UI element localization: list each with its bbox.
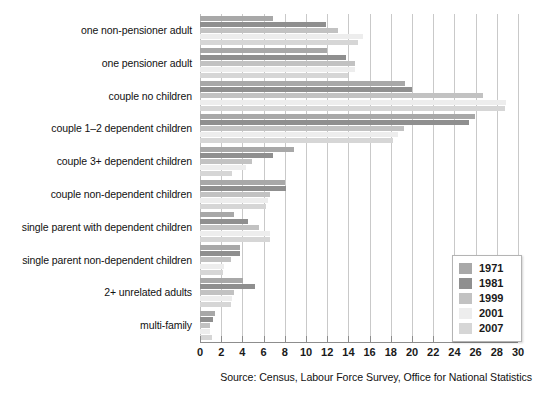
- bar: [200, 165, 246, 170]
- tick-mark-22: [433, 336, 434, 342]
- tick-label-0: 0: [197, 345, 203, 359]
- bar: [200, 329, 210, 334]
- tick-mark-2: [221, 336, 222, 342]
- bar: [200, 171, 232, 176]
- bar: [200, 231, 270, 236]
- legend-item[interactable]: 1981: [459, 276, 515, 291]
- legend-swatch-icon: [459, 263, 472, 274]
- bar: [200, 114, 475, 119]
- category-label: one pensioner adult: [2, 57, 192, 70]
- bar: [200, 198, 268, 203]
- bar: [200, 81, 405, 86]
- bar: [200, 270, 223, 275]
- tick-label-16: 16: [363, 345, 375, 359]
- bar-group: [200, 47, 518, 80]
- legend-item[interactable]: 2007: [459, 321, 515, 336]
- category-label: single parent with dependent children: [2, 221, 192, 234]
- tick-mark-20: [412, 336, 413, 342]
- bar: [200, 311, 215, 316]
- x-axis-tick-labels: 024681012141618202224262830: [200, 345, 518, 361]
- bar: [200, 120, 469, 125]
- tick-mark-12: [327, 336, 328, 342]
- category-label: multi-family: [2, 319, 192, 332]
- bar-group: [200, 145, 518, 178]
- bar: [200, 284, 255, 289]
- legend-item[interactable]: 1999: [459, 291, 515, 306]
- tick-label-22: 22: [427, 345, 439, 359]
- bar: [200, 34, 363, 39]
- source-note: Source: Census, Labour Force Survey, Off…: [0, 370, 532, 384]
- bar: [200, 48, 327, 53]
- bar: [200, 93, 483, 98]
- bar: [200, 317, 213, 322]
- bar: [200, 132, 398, 137]
- bar: [200, 278, 243, 283]
- bar: [200, 159, 252, 164]
- tick-mark-6: [264, 336, 265, 342]
- bar: [200, 61, 355, 66]
- bar: [200, 126, 404, 131]
- tick-label-30: 30: [512, 345, 524, 359]
- tick-label-2: 2: [218, 345, 224, 359]
- bar-group: [200, 14, 518, 47]
- tick-label-8: 8: [282, 345, 288, 359]
- bar: [200, 257, 231, 262]
- bar: [200, 16, 273, 21]
- legend-label: 2007: [479, 322, 503, 335]
- category-label: couple 1–2 dependent children: [2, 122, 192, 135]
- legend-label: 1971: [479, 262, 503, 275]
- bar: [200, 296, 232, 301]
- bar: [200, 55, 346, 60]
- bar: [200, 302, 231, 307]
- bar: [200, 73, 348, 78]
- category-label: couple 3+ dependent children: [2, 155, 192, 168]
- tick-mark-18: [391, 336, 392, 342]
- legend[interactable]: 19711981199920012007: [452, 255, 522, 342]
- tick-mark-4: [242, 336, 243, 342]
- tick-label-4: 4: [239, 345, 245, 359]
- category-label: one non-pensioner adult: [2, 24, 192, 37]
- tick-mark-14: [348, 336, 349, 342]
- bar: [200, 138, 393, 143]
- legend-swatch-icon: [459, 278, 472, 289]
- bar: [200, 237, 270, 242]
- bar: [200, 87, 412, 92]
- bar: [200, 323, 210, 328]
- bar: [200, 153, 273, 158]
- legend-label: 1999: [479, 292, 503, 305]
- tick-mark-0: [200, 336, 201, 342]
- bar: [200, 180, 285, 185]
- tick-label-18: 18: [385, 345, 397, 359]
- category-label: couple no children: [2, 90, 192, 103]
- tick-label-6: 6: [261, 345, 267, 359]
- bar: [200, 192, 270, 197]
- tick-mark-16: [370, 336, 371, 342]
- bar-group: [200, 80, 518, 113]
- legend-label: 2001: [479, 307, 503, 320]
- bar: [200, 22, 326, 27]
- bar: [200, 186, 286, 191]
- tick-label-26: 26: [469, 345, 481, 359]
- legend-item[interactable]: 2001: [459, 306, 515, 321]
- category-axis: one non-pensioner adultone pensioner adu…: [0, 14, 196, 342]
- category-label: single parent non-dependent children: [2, 254, 192, 267]
- legend-swatch-icon: [459, 323, 472, 334]
- bar: [200, 225, 259, 230]
- tick-label-28: 28: [491, 345, 503, 359]
- bar-group: [200, 178, 518, 211]
- category-label: 2+ unrelated adults: [2, 286, 192, 299]
- legend-item[interactable]: 1971: [459, 261, 515, 276]
- bar: [200, 67, 355, 72]
- bar: [200, 147, 294, 152]
- tick-label-10: 10: [300, 345, 312, 359]
- tick-mark-10: [306, 336, 307, 342]
- legend-swatch-icon: [459, 308, 472, 319]
- tick-label-24: 24: [448, 345, 460, 359]
- bar: [200, 290, 234, 295]
- tick-mark-8: [285, 336, 286, 342]
- bar: [200, 106, 505, 111]
- bar-chart: one non-pensioner adultone pensioner adu…: [0, 0, 544, 409]
- bar: [200, 245, 240, 250]
- bar-group: [200, 112, 518, 145]
- bar: [200, 219, 248, 224]
